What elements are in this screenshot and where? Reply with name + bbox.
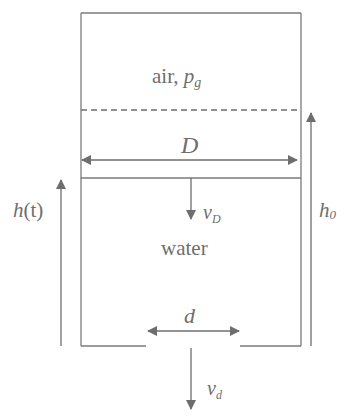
initial-height-subscript: 0 — [330, 207, 337, 222]
initial-height-symbol: h — [319, 198, 330, 222]
air-label: air, pg — [152, 66, 201, 87]
tank-drain-diagram: air, pg D vD water h(t) h0 d vd — [0, 0, 353, 416]
gas-pressure-symbol: p — [184, 64, 195, 88]
diagram-canvas — [0, 0, 353, 416]
diameter-D-label: D — [181, 133, 198, 157]
surface-velocity-label: vD — [203, 202, 221, 222]
height-symbol: h — [13, 198, 24, 222]
height-ht-label: h(t) — [13, 200, 43, 221]
air-text: air, — [152, 64, 184, 88]
outlet-velocity-label: vd — [207, 378, 222, 398]
outlet-velocity-subscript: d — [216, 388, 222, 402]
water-label: water — [161, 238, 208, 259]
velocity-subscript: D — [212, 212, 221, 226]
velocity-symbol: v — [203, 201, 212, 223]
initial-height-h0-label: h0 — [319, 200, 336, 221]
height-time-arg: (t) — [24, 198, 44, 222]
gas-pressure-subscript: g — [194, 75, 201, 90]
outlet-diameter-d-label: d — [184, 305, 195, 327]
outlet-velocity-symbol: v — [207, 377, 216, 399]
